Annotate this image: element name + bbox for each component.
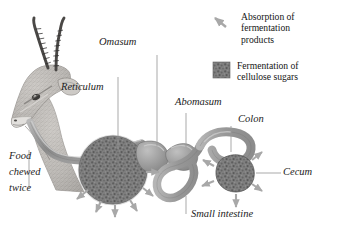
arrow-icon — [215, 18, 226, 27]
legend-item-absorption: Absorption of fermentation products — [241, 11, 295, 45]
stipple-square-icon — [213, 62, 230, 78]
legend-fermentation-line2: cellulose sugars — [237, 71, 299, 82]
legend-absorption-line1: Absorption of — [241, 11, 295, 22]
legend-item-fermentation: Fermentation of cellulose sugars — [237, 60, 299, 83]
legend-absorption-line2: fermentation — [241, 22, 295, 33]
figure-canvas: Omasum Reticulum Abomasum Colon Cecum Sm… — [0, 0, 338, 231]
legend-fermentation-line1: Fermentation of — [237, 60, 299, 71]
legend-absorption-line3: products — [241, 34, 295, 45]
